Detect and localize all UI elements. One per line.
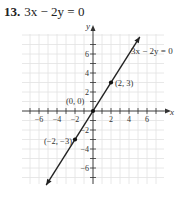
x-axis-label: x — [169, 107, 174, 117]
x-tick-label: 2 — [109, 115, 113, 124]
y-tick-label: 2 — [85, 88, 89, 97]
point-label: (−2, −3) — [44, 136, 72, 146]
data-point — [109, 80, 113, 84]
y-tick-label: −2 — [80, 126, 89, 135]
x-tick-label: −4 — [53, 115, 62, 124]
y-tick-label: −6 — [80, 164, 89, 173]
point-label: (0, 0) — [66, 96, 85, 106]
x-tick-label: −2 — [71, 115, 80, 124]
data-point — [91, 109, 95, 113]
y-tick-label: 4 — [85, 69, 89, 78]
x-tick-label: −6 — [35, 115, 44, 124]
y-tick-label: −4 — [80, 145, 89, 154]
data-point — [73, 137, 77, 141]
labels: xy−6−4−2246−6−4−2246(0, 0)(2, 3)(−2, −3)… — [35, 21, 174, 173]
y-tick-label: 6 — [85, 50, 89, 59]
y-axis-arrow-icon — [91, 25, 96, 31]
point-label: (2, 3) — [115, 78, 134, 88]
y-axis-label: y — [85, 21, 90, 31]
x-tick-label: 6 — [145, 115, 149, 124]
equation-annotation: 3x − 2y = 0 — [131, 46, 173, 56]
coordinate-plane: xy−6−4−2246−6−4−2246(0, 0)(2, 3)(−2, −3)… — [0, 0, 193, 204]
x-tick-label: 4 — [127, 115, 131, 124]
